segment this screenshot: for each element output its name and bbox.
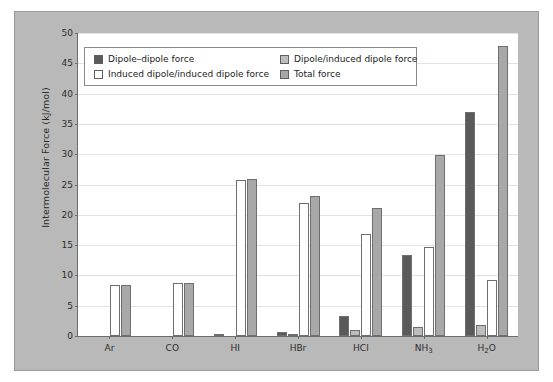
y-axis-tick-mark — [75, 336, 78, 337]
y-axis-tick-label: 30 — [62, 149, 73, 159]
bar — [465, 112, 475, 336]
y-axis-tick-label: 15 — [62, 240, 73, 250]
y-axis-tick-label: 20 — [62, 210, 73, 220]
x-axis-tick-label: H2O — [455, 343, 518, 353]
x-axis-tick-mark — [298, 336, 299, 339]
y-axis-tick-label: 0 — [67, 331, 73, 341]
x-axis-tick-mark — [109, 336, 110, 339]
bar — [277, 332, 287, 336]
x-axis-tick-mark — [172, 336, 173, 339]
bar — [487, 280, 497, 336]
legend-swatch-icon — [280, 70, 289, 79]
bar — [184, 283, 194, 336]
y-axis-tick-label: 10 — [62, 270, 73, 280]
x-axis-tick-mark — [361, 336, 362, 339]
y-axis-tick-label: 50 — [62, 28, 73, 38]
bar — [247, 179, 257, 336]
bar — [476, 325, 486, 337]
legend-label: Dipole/induced dipole force — [294, 54, 417, 64]
bar — [350, 330, 360, 336]
y-axis-tick-label: 35 — [62, 119, 73, 129]
bar — [361, 234, 371, 336]
legend-label: Dipole–dipole force — [108, 54, 194, 64]
y-axis-tick-label: 25 — [62, 180, 73, 190]
legend-swatch-icon — [94, 70, 103, 79]
y-axis-tick-label: 45 — [62, 58, 73, 68]
bar — [214, 334, 224, 336]
bar-group-H2O: H2O — [455, 33, 518, 336]
bar — [310, 196, 320, 336]
chart-figure: Intermolecular Force (kJ/mol) 0510152025… — [14, 11, 539, 371]
bar — [299, 203, 309, 336]
x-axis-tick-mark — [235, 336, 236, 339]
y-axis-title: Intermolecular Force (kJ/mol) — [40, 58, 51, 258]
x-axis-tick-label: CO — [141, 343, 204, 353]
bar — [424, 247, 434, 336]
legend-entry: Total force — [280, 69, 417, 79]
bar — [173, 283, 183, 336]
y-axis-tick-label: 40 — [62, 89, 73, 99]
bar — [110, 285, 120, 336]
bar — [435, 155, 445, 336]
chart-legend: Dipole–dipole forceDipole/induced dipole… — [84, 47, 417, 86]
x-axis-tick-label: NH3 — [392, 343, 455, 353]
x-axis-tick-mark — [487, 336, 488, 339]
bar — [288, 334, 298, 336]
bar — [413, 327, 423, 336]
bar — [339, 316, 349, 336]
legend-entry: Induced dipole/induced dipole force — [94, 69, 280, 79]
legend-label: Induced dipole/induced dipole force — [108, 69, 269, 79]
x-axis-tick-label: HBr — [267, 343, 330, 353]
x-axis-tick-label: HCl — [329, 343, 392, 353]
legend-label: Total force — [294, 69, 341, 79]
x-axis-tick-label: Ar — [78, 343, 141, 353]
bar — [121, 285, 131, 336]
legend-entry: Dipole–dipole force — [94, 54, 280, 64]
legend-swatch-icon — [280, 55, 289, 64]
bar — [236, 180, 246, 336]
legend-entry: Dipole/induced dipole force — [280, 54, 417, 64]
x-axis-tick-label: HI — [204, 343, 267, 353]
y-axis-tick-label: 5 — [67, 301, 73, 311]
bar — [498, 46, 508, 336]
x-axis-tick-mark — [424, 336, 425, 339]
legend-swatch-icon — [94, 55, 103, 64]
bar — [402, 255, 412, 336]
bar — [372, 208, 382, 336]
